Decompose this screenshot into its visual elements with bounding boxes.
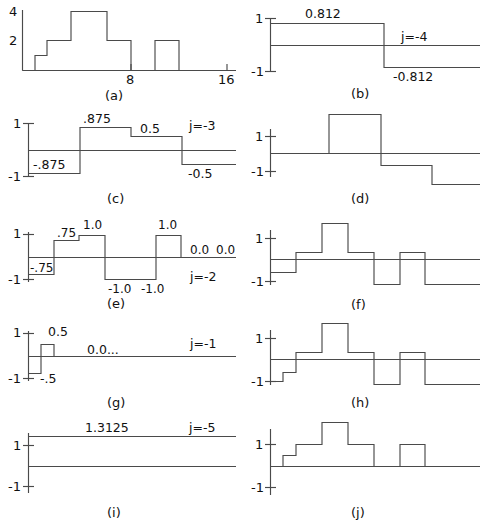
value-label-pos05: 0.5 bbox=[140, 121, 160, 136]
panel-j-plot bbox=[243, 415, 485, 510]
value-label-pos75: .75 bbox=[57, 226, 76, 240]
y-tick-label-neg1: -1 bbox=[251, 480, 264, 495]
panel-e: 1 -1 -.75 .75 1.0 -1.0 -1.0 1.0 0.0 0.0 … bbox=[0, 210, 243, 315]
panel-b: 1 -1 0.812 -0.812 j=-4 (b) bbox=[243, 0, 485, 105]
value-label-neg05: -0.5 bbox=[188, 166, 212, 181]
value-label-neg10-b: -1.0 bbox=[141, 282, 164, 296]
panel-caption-c: (c) bbox=[107, 191, 124, 206]
panel-b-plot bbox=[243, 0, 485, 90]
panel-f: 1 -1 (f) bbox=[243, 210, 485, 315]
panel-caption-g: (g) bbox=[107, 395, 125, 410]
value-label-zero-b: 0.0 bbox=[216, 243, 235, 257]
panel-caption-e: (e) bbox=[107, 296, 125, 311]
y-tick-label-pos1: 1 bbox=[255, 11, 263, 26]
value-label-zero-a: 0.0 bbox=[190, 243, 209, 257]
panel-i: 1 -1 1.3125 j=-5 (i) bbox=[0, 415, 243, 524]
y-tick-label-neg1: -1 bbox=[8, 272, 21, 287]
panel-c: 1 -1 -.875 .875 0.5 -0.5 j=-3 (c) bbox=[0, 105, 243, 210]
value-label-neg75: -.75 bbox=[30, 261, 53, 275]
y-tick-label-neg1: -1 bbox=[251, 64, 264, 79]
value-label-positive: 0.812 bbox=[305, 6, 341, 21]
panel-caption-f: (f) bbox=[351, 297, 366, 312]
scale-label-j: j=-2 bbox=[190, 269, 216, 284]
y-tick-label-pos1: 1 bbox=[13, 226, 21, 241]
y-tick-label-neg1: -1 bbox=[251, 164, 264, 179]
y-tick-label-neg1: -1 bbox=[8, 371, 21, 386]
panel-j: 1 -1 (j) bbox=[243, 415, 485, 524]
value-label-neg10-a: -1.0 bbox=[108, 282, 131, 296]
x-tick-label-16: 16 bbox=[218, 72, 235, 87]
value-label-negative: -0.812 bbox=[393, 69, 433, 84]
y-tick-label-pos1: 1 bbox=[255, 129, 263, 144]
y-tick-label-pos1: 1 bbox=[13, 116, 21, 131]
value-label-zero: 0.0... bbox=[87, 342, 119, 357]
panel-h-plot bbox=[243, 315, 485, 400]
scale-label-j: j=-1 bbox=[190, 336, 216, 351]
scale-label-j: j=-5 bbox=[189, 420, 215, 435]
y-tick-label-pos1: 1 bbox=[13, 325, 21, 340]
y-tick-label-neg1: -1 bbox=[251, 274, 264, 289]
x-tick-label-8: 8 bbox=[126, 72, 134, 87]
y-tick-label-pos1: 1 bbox=[255, 331, 263, 346]
panel-d-plot bbox=[243, 105, 485, 195]
panel-h: 1 -1 (h) bbox=[243, 315, 485, 415]
panel-caption-d: (d) bbox=[351, 191, 369, 206]
panel-d: 1 -1 (d) bbox=[243, 105, 485, 210]
value-label-pos10-a: 1.0 bbox=[83, 218, 102, 232]
signal-trace bbox=[271, 324, 481, 385]
panel-caption-h: (h) bbox=[351, 395, 369, 410]
scale-label-j: j=-3 bbox=[189, 118, 215, 133]
panel-caption-a: (a) bbox=[105, 88, 123, 103]
signal-trace bbox=[271, 423, 481, 467]
panel-a-plot bbox=[0, 0, 243, 90]
value-label-constant: 1.3125 bbox=[85, 420, 129, 435]
panel-caption-j: (j) bbox=[351, 505, 365, 520]
signal-trace bbox=[271, 224, 481, 285]
value-label-pos05: 0.5 bbox=[48, 324, 68, 339]
value-label-neg875: -.875 bbox=[33, 157, 65, 172]
signal-trace bbox=[271, 115, 481, 185]
value-label-pos875: .875 bbox=[83, 111, 111, 126]
y-tick-label-2: 2 bbox=[9, 33, 17, 48]
value-label-pos10-b: 1.0 bbox=[158, 218, 177, 232]
y-tick-label-neg1: -1 bbox=[251, 374, 264, 389]
y-tick-label-pos1: 1 bbox=[255, 231, 263, 246]
panel-caption-b: (b) bbox=[351, 86, 369, 101]
y-tick-label-neg1: -1 bbox=[8, 479, 21, 494]
y-tick-label-pos1: 1 bbox=[13, 438, 21, 453]
scale-label-j: j=-4 bbox=[401, 29, 427, 44]
panel-g-plot bbox=[0, 315, 243, 400]
y-tick-label-pos1: 1 bbox=[255, 437, 263, 452]
y-tick-label-4: 4 bbox=[9, 4, 17, 19]
value-label-neg05: -.5 bbox=[40, 371, 56, 386]
panel-g: 1 -1 -.5 0.5 0.0... j=-1 (g) bbox=[0, 315, 243, 415]
panel-caption-i: (i) bbox=[107, 505, 121, 520]
signal-trace bbox=[23, 12, 180, 71]
panel-f-plot bbox=[243, 210, 485, 300]
y-tick-label-neg1: -1 bbox=[8, 169, 21, 184]
panel-a: 4 2 8 16 (a) bbox=[0, 0, 243, 105]
